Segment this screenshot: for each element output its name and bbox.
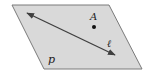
line-l-label: ℓ xyxy=(107,38,111,49)
point-a-label: A xyxy=(89,11,97,22)
point-a-dot xyxy=(92,25,96,29)
plane-p-label: p xyxy=(48,53,55,66)
diagram-canvas: A ℓ p xyxy=(0,0,144,76)
